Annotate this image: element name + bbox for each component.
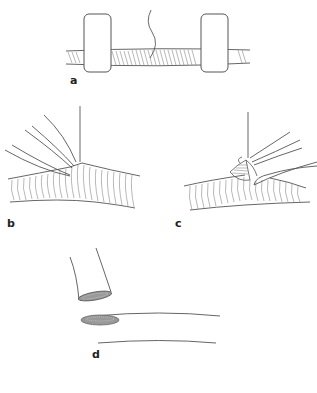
everted-vessel-forceps-illustration xyxy=(160,90,317,230)
panel-a: a xyxy=(0,0,317,95)
panel-label-b: b xyxy=(7,217,15,230)
panel-label-d: d xyxy=(92,348,100,361)
panel-b: b xyxy=(0,90,160,230)
panel-label-a: a xyxy=(70,74,77,87)
branching-vessel-forceps-illustration xyxy=(0,90,160,230)
end-to-side-anastomosis-illustration xyxy=(60,240,260,380)
vessel-clamps-illustration xyxy=(0,0,317,95)
panel-d: d xyxy=(60,240,260,380)
panel-label-c: c xyxy=(175,217,182,230)
panel-c: c xyxy=(160,90,317,230)
